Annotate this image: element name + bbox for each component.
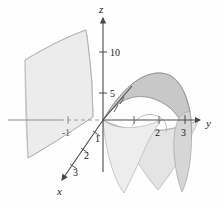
axis-label-z: z bbox=[98, 3, 104, 15]
ticklabel-y-2: 2 bbox=[155, 127, 160, 138]
axis-y-positive bbox=[103, 115, 200, 124]
ticklabel-y-3: 3 bbox=[181, 127, 186, 138]
axis-z bbox=[99, 18, 107, 172]
axis-label-x: x bbox=[56, 185, 62, 197]
ticklabel-z-5: 5 bbox=[110, 88, 115, 99]
ticklabel-x-3: 3 bbox=[73, 167, 78, 178]
ticklabel-z-10: 10 bbox=[110, 47, 120, 58]
surface-plot-figure: -1 bbox=[0, 0, 224, 204]
ticklabel-x-2: 2 bbox=[84, 150, 89, 161]
surface-right-tail bbox=[174, 112, 192, 192]
ticklabel-y-neg1: -1 bbox=[62, 128, 70, 138]
surface-left-sheet bbox=[25, 30, 93, 158]
axis-label-y: y bbox=[205, 117, 211, 129]
ticklabel-x-1: 1 bbox=[95, 133, 100, 144]
plot-canvas: -1 bbox=[0, 0, 224, 204]
